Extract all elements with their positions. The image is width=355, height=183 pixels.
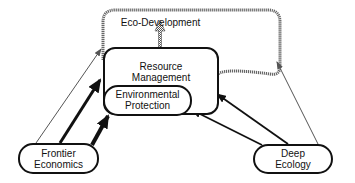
resource-management-label: Resource Management [103, 61, 219, 83]
deep-ecology-label: Deep Ecology [253, 148, 333, 170]
edge-frontier-to-resource [60, 80, 100, 143]
edge-deep-to-environmental [192, 110, 262, 145]
edge-deep-to-resource [217, 94, 288, 144]
edge-deep-to-eco [277, 62, 318, 144]
resource-management-line2: Management [103, 72, 219, 83]
deep-ecology-line1: Deep [253, 148, 333, 159]
environmental-protection-line1: Environmental [103, 89, 192, 100]
frontier-economics-label: Frontier Economics [18, 148, 99, 170]
resource-management-line1: Resource [103, 61, 219, 72]
environmental-protection-line2: Protection [103, 100, 192, 111]
environmental-protection-label: Environmental Protection [103, 89, 192, 111]
deep-ecology-line2: Ecology [253, 159, 333, 170]
eco-development-label: Eco-Development [103, 17, 218, 28]
frontier-economics-line1: Frontier [18, 148, 99, 159]
edge-frontier-to-environmental [92, 116, 108, 145]
frontier-economics-line2: Economics [18, 159, 99, 170]
